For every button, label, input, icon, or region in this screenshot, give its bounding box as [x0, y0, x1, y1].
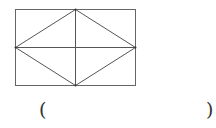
answer-open-paren: ( [39, 99, 46, 119]
vertex-bottom [75, 85, 77, 87]
answer-close-paren: ) [206, 99, 213, 119]
vertex-left [15, 47, 17, 49]
answer-blank[interactable] [50, 100, 200, 120]
vertex-right [135, 47, 137, 49]
vertex-top [75, 9, 77, 11]
